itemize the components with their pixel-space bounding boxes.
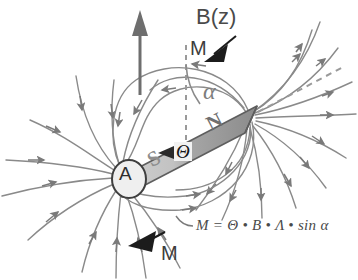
b-field-arrow (132, 10, 148, 95)
torque-arrow-bottom (128, 231, 165, 252)
formula-leader-line (176, 216, 193, 226)
angle-alpha-label: α (203, 79, 216, 103)
torque-formula: M = Θ • B • Λ • sin α (196, 218, 329, 233)
magnet-axis-extension (258, 66, 345, 112)
torque-label-top: M (190, 38, 207, 58)
torque-arrow-top (204, 36, 236, 62)
diagram-canvas: B(z) M M α A S N Θ M = Θ • B • Λ • sin α (0, 0, 358, 280)
angle-theta-label: Θ (174, 142, 192, 161)
pivot-label: A (119, 164, 132, 183)
torque-label-bottom: M (161, 243, 178, 263)
external-field-label: B(z) (196, 6, 236, 28)
diagram-vector-layer (0, 0, 358, 280)
